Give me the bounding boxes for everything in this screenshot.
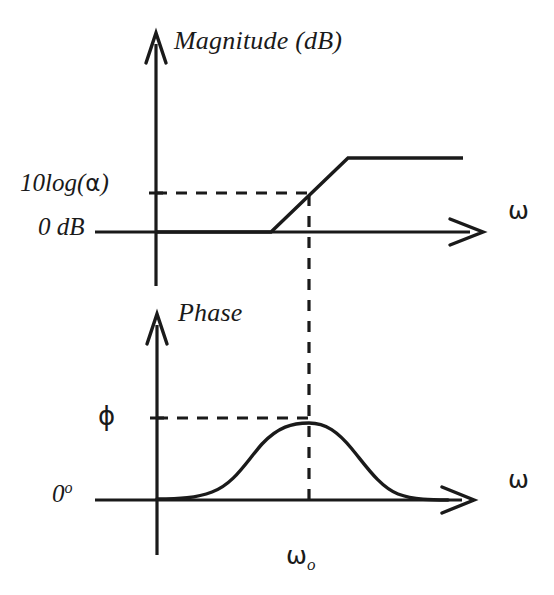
alpha-symbol: α <box>85 170 100 196</box>
figure-container: Magnitude (dB) 10log(α) 0 dB ω Phase ϕ 0… <box>0 0 554 595</box>
phase-plot-group <box>95 314 474 555</box>
phase-x-axis-label: ω <box>508 467 529 492</box>
bode-diagram-svg <box>0 0 554 595</box>
degree-symbol: o <box>65 479 73 496</box>
phase-curve <box>157 423 448 500</box>
phase-peak-label: ϕ <box>98 403 115 429</box>
gain-label-close: ) <box>100 169 108 196</box>
phase-baseline-label: 0o <box>52 480 73 506</box>
corner-frequency-omega: ω <box>286 541 307 570</box>
corner-frequency-subscript: o <box>307 555 316 574</box>
gain-label-text: 10log( <box>20 169 85 196</box>
phase-axis-label: Phase <box>178 300 243 326</box>
magnitude-gain-label: 10log(α) <box>20 170 109 195</box>
phase-baseline-number: 0 <box>52 480 65 507</box>
magnitude-baseline-label: 0 dB <box>38 214 85 239</box>
magnitude-plot-group <box>95 33 483 286</box>
corner-frequency-label: ωo <box>286 543 315 573</box>
magnitude-axis-label: Magnitude (dB) <box>174 28 342 54</box>
magnitude-x-axis-label: ω <box>508 198 529 223</box>
